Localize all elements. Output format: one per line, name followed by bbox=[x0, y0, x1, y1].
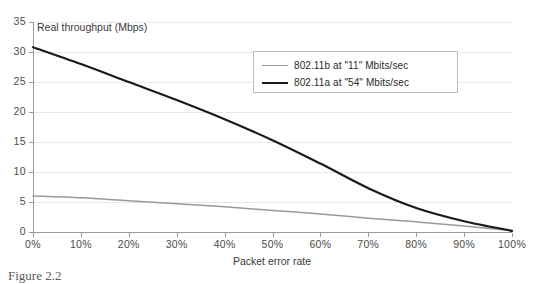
chart-legend: 802.11b at "11" Mbits/sec802.11a at "54"… bbox=[253, 51, 458, 93]
legend-label: 802.11b at "11" Mbits/sec bbox=[294, 60, 408, 71]
legend-swatch bbox=[262, 82, 288, 84]
legend-label: 802.11a at "54" Mbits/sec bbox=[294, 77, 409, 88]
series-line bbox=[33, 196, 512, 231]
legend-item: 802.11a at "54" Mbits/sec bbox=[262, 75, 457, 90]
legend-item: 802.11b at "11" Mbits/sec bbox=[262, 58, 457, 73]
figure-caption: Figure 2.2 bbox=[8, 268, 61, 284]
legend-swatch bbox=[262, 65, 288, 66]
